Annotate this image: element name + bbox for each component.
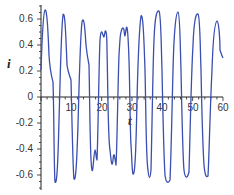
y-tick-label: 0.4 [19,39,33,50]
y-tick-labels: 0.6 0.4 0.2 0 -0.2 -0.4 -0.6 [16,13,34,180]
y-tick-label: -0.4 [16,143,34,154]
data-line [41,10,223,182]
x-tick-label: 60 [217,102,229,113]
line-chart: 0.6 0.4 0.2 0 -0.2 -0.4 -0.6 10 20 30 40… [0,0,234,195]
y-tick-label: -0.6 [16,169,34,180]
y-ticks [37,6,41,188]
x-ticks [41,97,223,101]
y-tick-label: -0.2 [16,117,34,128]
y-tick-label: 0 [27,91,33,102]
x-tick-label: 50 [187,102,199,113]
y-tick-label: 0.6 [19,13,33,24]
y-axis-label: i [7,56,11,71]
y-tick-label: 0.2 [19,65,33,76]
